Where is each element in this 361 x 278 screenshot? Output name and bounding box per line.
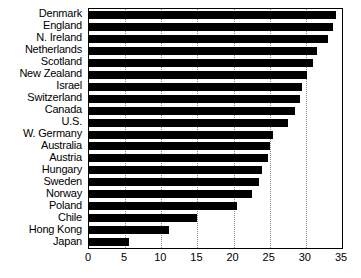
bar (89, 35, 328, 43)
bar-row (89, 140, 342, 152)
y-axis-label: Netherlands (0, 44, 85, 56)
x-tick-label: 20 (226, 252, 238, 263)
bar (89, 23, 333, 31)
y-axis-label: Austria (0, 151, 85, 163)
y-axis-label: N. Ireland (0, 32, 85, 44)
y-axis-label: Poland (0, 199, 85, 211)
bar (89, 190, 252, 198)
x-tick-label: 25 (263, 252, 275, 263)
y-axis-label: Sweden (0, 175, 85, 187)
y-axis-category-labels: DenmarkEnglandN. IrelandNetherlandsScotl… (0, 8, 85, 247)
y-axis-label: Australia (0, 139, 85, 151)
bar (89, 238, 129, 246)
bar (89, 154, 268, 162)
bar-row (89, 81, 342, 93)
x-tick-label: 10 (154, 252, 166, 263)
y-axis-label: Hong Kong (0, 223, 85, 235)
x-axis: 05101520253035 (88, 248, 341, 274)
y-axis-label: Canada (0, 104, 85, 116)
bar-row (89, 236, 342, 248)
y-axis-label: Denmark (0, 8, 85, 20)
bar (89, 178, 259, 186)
y-axis-label: Chile (0, 211, 85, 223)
bar-row (89, 200, 342, 212)
bar-row (89, 224, 342, 236)
y-axis-label: Hungary (0, 163, 85, 175)
bar (89, 107, 295, 115)
bar-row (89, 105, 342, 117)
bar (89, 83, 302, 91)
bar (89, 166, 262, 174)
x-tick-label: 35 (335, 252, 347, 263)
y-axis-label: Norway (0, 187, 85, 199)
y-axis-label: U.S. (0, 116, 85, 128)
y-axis-label: Scotland (0, 56, 85, 68)
plot-area (88, 8, 343, 249)
x-tick-label: 5 (121, 252, 127, 263)
bar (89, 142, 270, 150)
bar-row (89, 69, 342, 81)
y-axis-label: W. Germany (0, 128, 85, 140)
bar-row (89, 93, 342, 105)
bar (89, 226, 169, 234)
bar (89, 202, 237, 210)
bar-series (89, 9, 342, 248)
bar-row (89, 176, 342, 188)
x-tick-label: 15 (190, 252, 202, 263)
bar-row (89, 21, 342, 33)
bar (89, 47, 317, 55)
y-axis-label: Japan (0, 235, 85, 247)
bar-chart: DenmarkEnglandN. IrelandNetherlandsScotl… (0, 0, 361, 278)
x-tick-label: 30 (299, 252, 311, 263)
bar-row (89, 188, 342, 200)
bar-row (89, 164, 342, 176)
y-axis-label: Israel (0, 80, 85, 92)
y-axis-label: England (0, 20, 85, 32)
y-axis-label: New Zealand (0, 68, 85, 80)
bar-row (89, 57, 342, 69)
bar (89, 11, 336, 19)
bar-row (89, 9, 342, 21)
bar-row (89, 212, 342, 224)
bar-row (89, 45, 342, 57)
bar (89, 119, 288, 127)
bar-row (89, 152, 342, 164)
y-axis-label: Switzerland (0, 92, 85, 104)
bar-row (89, 129, 342, 141)
bar (89, 214, 197, 222)
bar (89, 59, 313, 67)
bar (89, 131, 273, 139)
bar-row (89, 117, 342, 129)
bar (89, 71, 307, 79)
bar-row (89, 33, 342, 45)
bar (89, 95, 300, 103)
x-tick-label: 0 (85, 252, 91, 263)
